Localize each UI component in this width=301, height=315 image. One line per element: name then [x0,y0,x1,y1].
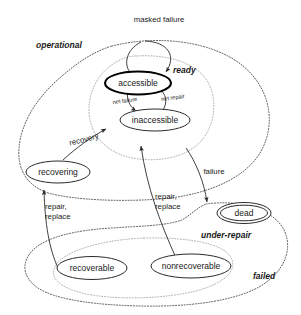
edge-label-recovery: recovery [68,132,99,148]
state-label-recovering: recovering [38,167,78,177]
statechart-svg: accessible inaccessible recovering dead … [0,0,301,315]
edge-label-repair-replace-left-line2: replace [45,212,71,221]
edge-label-repair-replace-middle-line2: replace [155,202,181,211]
state-label-recoverable: recoverable [70,263,115,273]
edge-label-repair-replace-middle-line1: repair, [155,192,177,201]
state-label-accessible: accessible [118,78,158,88]
region-label-under-repair: under-repair [201,230,252,240]
state-label-dead: dead [235,208,254,218]
region-label-operational: operational [36,40,82,50]
state-diagram-canvas: accessible inaccessible recovering dead … [0,0,301,315]
edge-label-net-failure: net failure [112,96,137,105]
region-label-ready: ready [173,65,197,75]
region-label-failed: failed [253,271,276,281]
edge-label-repair-replace-left-line1: repair, [45,202,67,211]
edge-label-failure: failure [203,167,224,176]
state-label-nonrecoverable: nonrecoverable [162,261,221,271]
state-label-inaccessible: inaccessible [132,115,179,125]
edge-label-masked-failure: masked failure [134,15,185,24]
